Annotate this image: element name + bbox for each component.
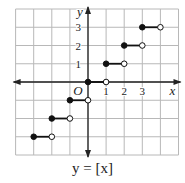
x-tick-label: 2 — [121, 85, 127, 97]
closed-endpoint — [85, 79, 91, 85]
open-endpoint — [140, 43, 146, 49]
origin-label: O — [73, 83, 83, 98]
open-endpoint — [121, 61, 127, 67]
open-endpoint — [49, 134, 55, 140]
open-endpoint — [85, 97, 91, 103]
y-axis-down-arrow-icon — [85, 150, 91, 158]
closed-endpoint — [31, 134, 37, 140]
y-axis-label: y — [75, 4, 83, 19]
x-axis-label: x — [169, 83, 176, 98]
y-tick-label: 1 — [76, 58, 82, 70]
closed-endpoint — [140, 24, 146, 30]
closed-endpoint — [121, 43, 127, 49]
open-endpoint — [67, 116, 73, 122]
closed-endpoint — [49, 116, 55, 122]
function-caption: y = [x] — [0, 160, 185, 177]
x-axis-left-arrow-icon — [13, 79, 21, 85]
open-endpoint — [103, 79, 109, 85]
y-tick-label: 2 — [76, 40, 82, 52]
step-function-graph: 123123xyO — [0, 0, 185, 160]
open-endpoint — [158, 24, 164, 30]
x-tick-label: 1 — [103, 85, 109, 97]
x-tick-label: 3 — [140, 85, 146, 97]
closed-endpoint — [103, 61, 109, 67]
y-tick-label: 3 — [76, 21, 82, 33]
y-axis-up-arrow-icon — [85, 6, 91, 14]
closed-endpoint — [67, 97, 73, 103]
